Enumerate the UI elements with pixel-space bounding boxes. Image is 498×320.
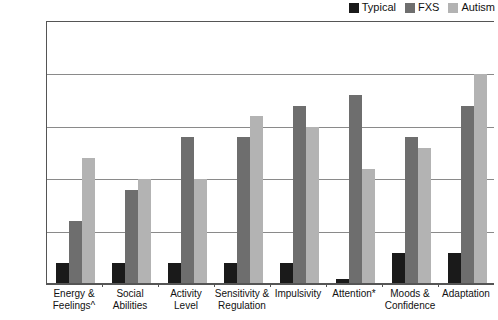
bar-fxs xyxy=(181,137,194,284)
x-axis-category-line: Energy & xyxy=(53,288,96,300)
chart-legend: TypicalFXSAutism xyxy=(349,1,495,14)
x-axis-category-line: Regulation xyxy=(215,300,269,312)
legend-item-typical: Typical xyxy=(349,2,396,13)
x-axis-category-line: Social xyxy=(113,288,147,300)
bar-autism xyxy=(474,74,487,284)
legend-item-fxs: FXS xyxy=(405,2,439,13)
x-axis-category-label: Adaptation xyxy=(442,288,490,300)
legend-swatch-typical xyxy=(349,3,359,13)
x-axis-category-line: Attention* xyxy=(332,288,375,300)
x-axis-tick xyxy=(158,283,159,287)
bar-typical xyxy=(448,253,461,284)
x-axis-tick xyxy=(270,283,271,287)
bar-fxs xyxy=(405,137,418,284)
bar-group xyxy=(383,22,439,284)
x-axis-category-label: Moods &Confidence xyxy=(385,288,436,312)
x-axis-category-label: Energy &Feelings^ xyxy=(53,288,96,312)
bar-autism xyxy=(418,148,431,284)
bar-autism xyxy=(306,127,319,284)
legend-label: Typical xyxy=(362,2,396,13)
x-axis-category-line: Level xyxy=(170,300,202,312)
bar-typical xyxy=(280,263,293,284)
bar-group xyxy=(271,22,327,284)
bar-typical xyxy=(392,253,405,284)
bar-typical xyxy=(168,263,181,284)
legend-item-autism: Autism xyxy=(448,2,495,13)
bar-autism xyxy=(82,158,95,284)
bar-typical xyxy=(56,263,69,284)
bar-group xyxy=(47,22,103,284)
x-axis-category-label: ActivityLevel xyxy=(170,288,202,312)
legend-label: Autism xyxy=(461,2,495,13)
bar-fxs xyxy=(461,106,474,284)
x-axis-category-line: Abilities xyxy=(113,300,147,312)
bar-autism xyxy=(362,169,375,284)
bar-fxs xyxy=(293,106,306,284)
z-score-bar-chart: TypicalFXSAutism Z Score 0-0.5-1-1.5-2-2… xyxy=(0,0,498,320)
x-axis-tick xyxy=(326,283,327,287)
bar-group xyxy=(215,22,271,284)
x-axis-category-line: Moods & xyxy=(385,288,436,300)
x-axis-category-line: Impulsivity xyxy=(275,288,322,300)
bar-fxs xyxy=(349,95,362,284)
x-axis-category-label: SocialAbilities xyxy=(113,288,147,312)
x-axis-category-label: Attention* xyxy=(332,288,375,300)
x-axis-category-label: Impulsivity xyxy=(275,288,322,300)
x-axis-category-label: Sensitivity &Regulation xyxy=(215,288,269,312)
bar-fxs xyxy=(69,221,82,284)
legend-swatch-fxs xyxy=(405,3,415,13)
bar-group xyxy=(159,22,215,284)
bar-autism xyxy=(138,179,151,284)
bar-fxs xyxy=(237,137,250,284)
legend-label: FXS xyxy=(418,2,439,13)
bar-typical xyxy=(224,263,237,284)
x-axis-tick xyxy=(438,283,439,287)
x-axis-tick xyxy=(214,283,215,287)
bar-autism xyxy=(250,116,263,284)
bar-autism xyxy=(194,179,207,284)
bar-group xyxy=(103,22,159,284)
x-axis-tick xyxy=(382,283,383,287)
x-axis-category-line: Confidence xyxy=(385,300,436,312)
bar-group xyxy=(327,22,383,284)
legend-swatch-autism xyxy=(448,3,458,13)
bar-fxs xyxy=(125,190,138,284)
x-axis-tick xyxy=(102,283,103,287)
x-axis-category-line: Adaptation xyxy=(442,288,490,300)
x-axis-category-line: Sensitivity & xyxy=(215,288,269,300)
x-axis-category-line: Feelings^ xyxy=(53,300,96,312)
x-axis-category-line: Activity xyxy=(170,288,202,300)
plot-area xyxy=(46,21,494,283)
bar-typical xyxy=(112,263,125,284)
bar-group xyxy=(439,22,495,284)
